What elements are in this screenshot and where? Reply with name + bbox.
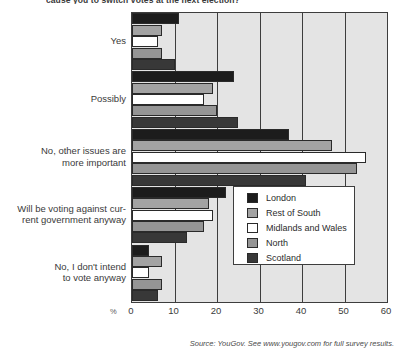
legend-item: Midlands and Wales [234, 221, 354, 235]
category-axis-labels: YesPossiblyNo, other issues aremore impo… [0, 12, 126, 303]
bar [132, 140, 332, 151]
bar [132, 129, 289, 140]
category-label-line: Possibly [0, 93, 126, 105]
legend-item: North [234, 236, 354, 250]
category-label-line: to vote anyway [0, 272, 126, 284]
bar [132, 25, 162, 36]
bar [132, 279, 162, 290]
category-label-line: Yes [0, 35, 126, 47]
bar [132, 117, 238, 128]
category-label-line: more important [0, 157, 126, 169]
bar [132, 290, 158, 301]
legend-item: London [234, 191, 354, 205]
category-label: No, I don't intendto vote anyway [0, 261, 126, 284]
category-label-line: No, I don't intend [0, 261, 126, 273]
bar [132, 245, 149, 256]
bar [132, 256, 162, 267]
bar [132, 175, 306, 186]
legend-item: Rest of South [234, 206, 354, 220]
x-axis-tick-label: 10 [168, 305, 179, 316]
bar [132, 198, 209, 209]
bar [132, 210, 213, 221]
chart-container: cause you to switch votes at the next el… [0, 0, 398, 355]
bar [132, 221, 204, 232]
bar [132, 187, 226, 198]
x-axis-tick-label: 60 [381, 305, 392, 316]
legend-label: North [266, 238, 288, 248]
legend-label: Rest of South [266, 208, 321, 218]
x-axis-tick-label: 20 [211, 305, 222, 316]
legend-label: London [266, 193, 296, 203]
legend-label: Midlands and Wales [266, 223, 347, 233]
x-axis-tick-label: 40 [296, 305, 307, 316]
x-axis-unit-label: % [110, 307, 117, 316]
category-label: Will be voting against cur-rent governme… [0, 203, 126, 226]
legend-swatch [247, 208, 258, 218]
bar [132, 71, 234, 82]
category-label: No, other issues aremore important [0, 145, 126, 168]
category-label-line: rent government anyway [0, 214, 126, 226]
chart-title: cause you to switch votes at the next el… [46, 0, 376, 4]
category-label: Yes [0, 35, 126, 47]
bar [132, 48, 162, 59]
bar [132, 13, 179, 24]
category-label-line: Will be voting against cur- [0, 203, 126, 215]
bar [132, 94, 204, 105]
legend-item: Scotland [234, 251, 354, 265]
legend: LondonRest of SouthMidlands and WalesNor… [233, 186, 355, 265]
gridline [387, 13, 388, 302]
legend-swatch [247, 223, 258, 233]
x-axis-tick-label: 50 [338, 305, 349, 316]
bar [132, 152, 366, 163]
legend-swatch [247, 193, 258, 203]
category-label-line: No, other issues are [0, 145, 126, 157]
category-label: Possibly [0, 93, 126, 105]
x-axis-tick-label: 0 [128, 305, 133, 316]
legend-swatch [247, 238, 258, 248]
legend-label: Scotland [266, 253, 301, 263]
bar [132, 105, 217, 116]
bar [132, 232, 187, 243]
source-note: Source: YouGov. See www.yougov.com for f… [190, 339, 394, 348]
legend-swatch [247, 253, 258, 263]
bar [132, 163, 357, 174]
bar [132, 267, 149, 278]
x-axis: % 0102030405060 [0, 305, 398, 319]
bar [132, 36, 158, 47]
bar [132, 83, 213, 94]
x-axis-tick-label: 30 [253, 305, 264, 316]
bar [132, 59, 175, 70]
